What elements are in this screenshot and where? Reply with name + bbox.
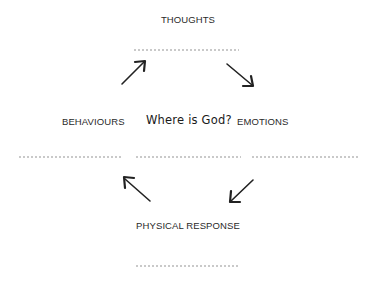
cycle-arrows	[0, 0, 376, 283]
arrow-down-left-icon	[230, 180, 253, 202]
arrow-down-right-icon	[227, 64, 253, 86]
arrow-up-right-icon	[122, 61, 145, 84]
arrow-up-left-icon	[124, 177, 150, 201]
